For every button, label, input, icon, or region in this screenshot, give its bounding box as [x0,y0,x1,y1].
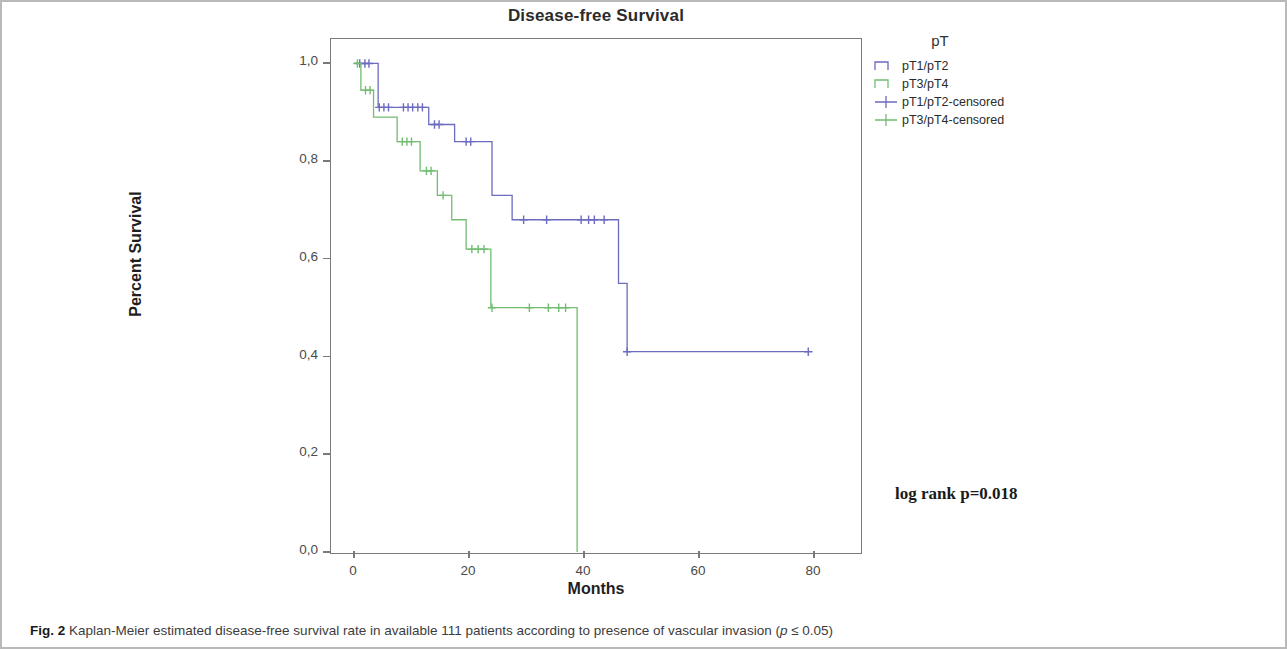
censored-marker [418,103,426,111]
censored-marker [384,103,392,111]
legend-step-icon [874,76,898,91]
censored-marker [407,137,415,145]
censored-marker [804,347,812,355]
legend-item-0[interactable]: pT1/pT2 [874,57,1084,74]
legend-item-2[interactable]: pT1/pT2-censored [874,93,1084,110]
censored-marker [590,216,598,224]
censored-marker [365,59,373,67]
caption-text-suffix: ≤ 0.05) [787,623,833,638]
caption-figure-number: Fig. 2 [30,623,65,638]
y-tick-mark [323,62,330,64]
log-rank-annotation: log rank p=0.018 [895,484,1018,504]
survival-step-line [354,63,577,552]
figure-container: Disease-free Survival 0,00,20,40,60,81,0… [0,0,1287,649]
chart-area: Disease-free Survival 0,00,20,40,60,81,0… [2,2,1287,602]
legend-item-label: pT1/pT2 [902,59,949,73]
legend-item-3[interactable]: pT3/pT4-censored [874,111,1084,128]
censored-marker [480,245,488,253]
censored-marker [544,304,552,312]
censored-marker [519,216,527,224]
x-tick-label: 80 [793,563,833,578]
y-tick-mark [323,356,330,358]
chart-title: Disease-free Survival [330,6,862,26]
y-tick-label: 0,0 [272,542,318,557]
y-tick-label: 0,8 [272,151,318,166]
x-axis-title: Months [330,580,862,598]
censored-marker [439,191,447,199]
legend-title: pT [880,32,1000,49]
caption-text-main: Kaplan-Meier estimated disease-free surv… [65,623,780,638]
censored-marker [542,216,550,224]
censored-marker [435,120,443,128]
x-tick-mark [353,551,355,558]
x-tick-mark [698,551,700,558]
censored-marker [623,347,631,355]
plot-frame [330,38,862,554]
x-tick-label: 0 [333,563,373,578]
x-tick-mark [468,551,470,558]
series-pt1-pt2 [354,59,812,356]
y-tick-label: 0,6 [272,249,318,264]
y-tick-mark [323,453,330,455]
legend-item-label: pT3/pT4-censored [902,113,1004,127]
x-tick-label: 60 [678,563,718,578]
censored-marker [525,304,533,312]
y-tick-mark [323,258,330,260]
figure-caption: Fig. 2 Kaplan-Meier estimated disease-fr… [30,622,1260,640]
x-tick-label: 40 [563,563,603,578]
legend: pT pT1/pT2pT3/pT4pT1/pT2-censoredpT3/pT4… [874,32,1084,129]
y-tick-label: 0,4 [272,347,318,362]
censored-marker [488,304,496,312]
y-axis-title: Percent Survival [127,104,145,404]
survival-curves-plot [331,39,860,552]
legend-cross-icon [874,112,898,127]
series-pt3-pt4 [353,59,577,552]
x-tick-label: 20 [448,563,488,578]
legend-item-label: pT3/pT4 [902,77,949,91]
y-tick-mark [323,551,330,553]
legend-item-1[interactable]: pT3/pT4 [874,75,1084,92]
x-tick-mark [813,551,815,558]
legend-item-label: pT1/pT2-censored [902,95,1004,109]
legend-step-icon [874,58,898,73]
censored-marker [577,216,585,224]
censored-marker [467,137,475,145]
legend-cross-icon [874,94,898,109]
censored-marker [427,167,435,175]
y-tick-label: 1,0 [272,53,318,68]
y-tick-label: 0,2 [272,444,318,459]
x-tick-mark [583,551,585,558]
censored-marker [600,216,608,224]
y-tick-mark [323,160,330,162]
censored-marker [561,304,569,312]
